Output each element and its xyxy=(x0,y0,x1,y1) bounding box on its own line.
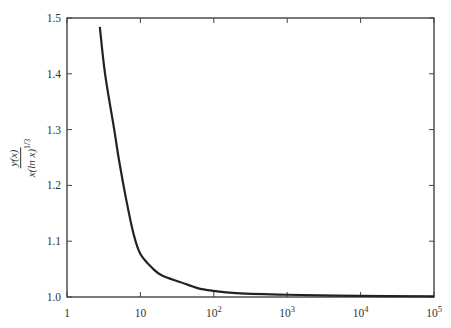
y-axis-tick-labels: 1.01.11.21.31.41.5 xyxy=(47,12,62,303)
y-label-denominator: x(ln x)1/3 xyxy=(21,139,37,178)
y-tick-label: 1.4 xyxy=(47,68,62,80)
line-chart: 110102103104105 1.01.11.21.31.41.5 xyxy=(0,0,451,328)
y-axis-label: y(x) x(ln x)1/3 xyxy=(2,118,42,198)
data-curve xyxy=(100,27,434,297)
x-tick-label: 102 xyxy=(206,304,222,319)
axis-ticks xyxy=(67,18,434,297)
x-tick-label: 105 xyxy=(426,304,442,319)
x-tick-label: 1 xyxy=(64,307,70,319)
plot-frame xyxy=(67,18,434,297)
y-tick-label: 1.5 xyxy=(47,12,62,24)
x-tick-label: 104 xyxy=(353,304,370,319)
y-tick-label: 1.1 xyxy=(47,235,62,247)
x-tick-label: 103 xyxy=(279,304,295,319)
y-label-numerator: y(x) xyxy=(7,147,21,168)
y-tick-label: 1.0 xyxy=(47,291,62,303)
x-axis-tick-labels: 110102103104105 xyxy=(64,304,442,319)
y-tick-label: 1.2 xyxy=(47,179,62,191)
y-tick-label: 1.3 xyxy=(47,124,62,136)
plot-border xyxy=(67,18,434,297)
x-tick-label: 10 xyxy=(135,307,147,319)
